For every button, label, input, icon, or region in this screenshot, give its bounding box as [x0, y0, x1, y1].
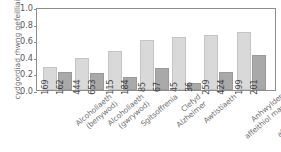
bar: 199: [237, 32, 251, 90]
bar: 85: [140, 40, 154, 90]
bar: 184: [123, 77, 137, 90]
y-tick-label: 1.0: [20, 4, 33, 12]
bar-group: 115184: [108, 9, 138, 90]
y-tick-mark: [34, 9, 37, 10]
y-tick-label: 0.0: [20, 87, 33, 95]
y-axis-tick-labels: 1.00.80.60.40.20.0: [13, 8, 33, 91]
bar: 162: [58, 72, 72, 90]
y-tick-label: 0.4: [20, 54, 33, 62]
y-tick-mark: [34, 59, 37, 60]
bar: 67: [155, 68, 169, 90]
bar: 653: [90, 73, 104, 90]
y-tick-label: 0.2: [20, 70, 33, 78]
y-tick-mark: [34, 42, 37, 43]
plot-area: 16916244465311518485674536259424199201: [36, 8, 276, 91]
x-axis-tick-labels: Alcoholiaeth(benywod)Alcoholiaeth(gwrywo…: [36, 93, 281, 152]
bar-group: 444653: [75, 9, 105, 90]
bars-container: 16916244465311518485674536259424199201: [37, 9, 275, 90]
bar-value-label: 85: [139, 82, 147, 92]
bar-group: 8567: [140, 9, 170, 90]
bar: 169: [43, 67, 57, 90]
twin-concordance-bar-chart: cydgordiad rhwng gefeilliaid 1.00.80.60.…: [0, 0, 281, 152]
bar-value-label: 45: [171, 82, 179, 92]
clipped-top-text-row: [18, 0, 268, 5]
bar-group: 169162: [43, 9, 73, 90]
bar-group: 259424: [204, 9, 234, 90]
bar: 201: [252, 55, 266, 90]
y-tick-mark: [34, 75, 37, 76]
bar: 424: [219, 72, 233, 90]
y-tick-label: 0.8: [20, 20, 33, 28]
bar-group: 4536: [172, 9, 202, 90]
bar: 36: [187, 83, 201, 90]
y-tick-label: 0.6: [20, 37, 33, 45]
bar-value-label: 36: [186, 82, 194, 92]
y-tick-mark: [34, 26, 37, 27]
x-tick-label: Awtistiaeth: [203, 93, 239, 125]
bar-value-label: 67: [154, 82, 162, 92]
bar-group: 199201: [237, 9, 267, 90]
bar: 115: [108, 51, 122, 90]
x-tick-label: Anhwylderaffeithiol mawr: [238, 93, 281, 141]
